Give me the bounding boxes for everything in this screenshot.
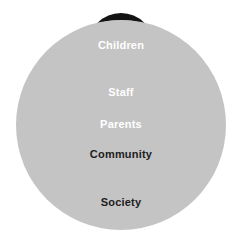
label-community: Community [0,148,242,160]
label-society: Society [0,196,242,208]
label-children: Children [0,39,242,51]
nested-circles-diagram: Society Community Parents Staff Children [0,0,242,251]
label-parents: Parents [0,118,242,130]
label-staff: Staff [0,86,242,98]
